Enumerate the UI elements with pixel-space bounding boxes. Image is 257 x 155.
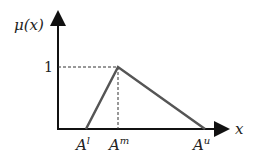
- y-tick-1: 1: [44, 59, 53, 75]
- point-label-au: Au: [191, 135, 210, 154]
- x-axis-label: x: [235, 120, 244, 138]
- membership-function-diagram: μ(x) 1 x Al Am Au: [0, 0, 257, 155]
- point-label-am: Am: [107, 135, 129, 154]
- point-label-al: Al: [74, 135, 90, 154]
- triangle-membership-line: [86, 67, 205, 129]
- y-axis-label: μ(x): [14, 16, 44, 34]
